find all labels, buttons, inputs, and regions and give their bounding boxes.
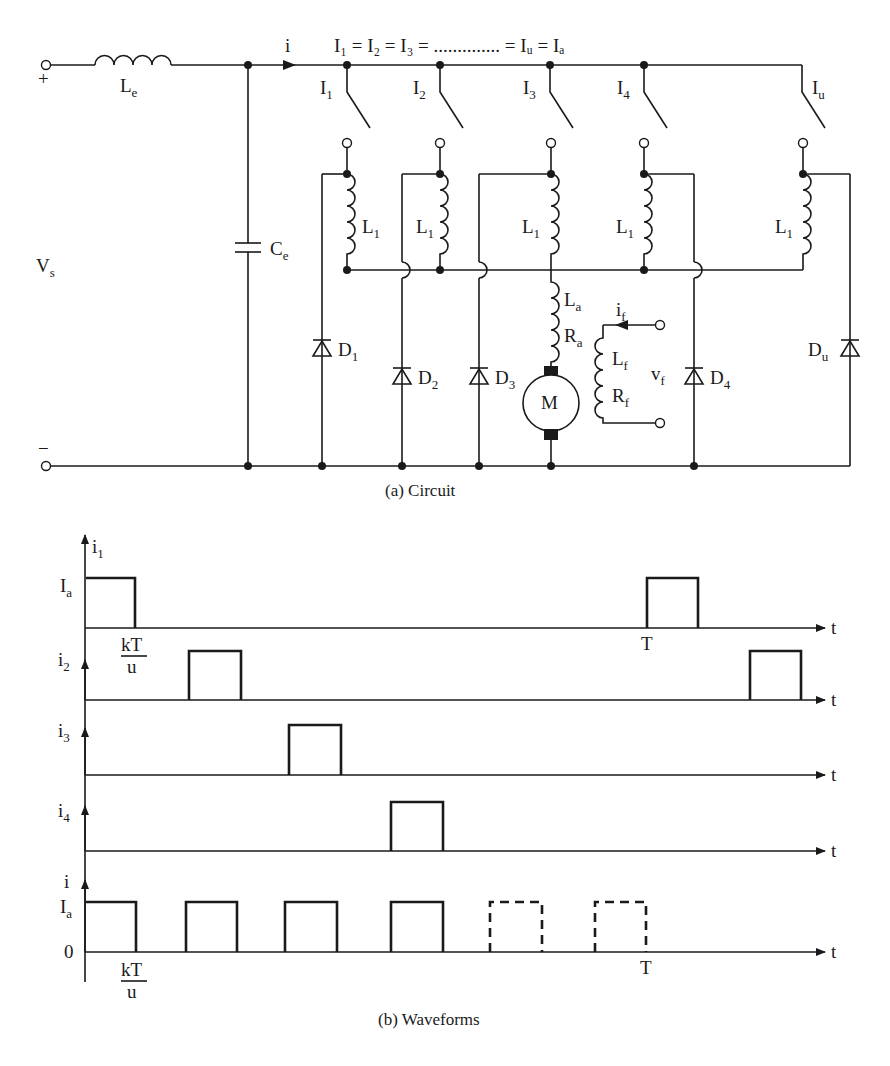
phase-inductor-label: L1 xyxy=(362,216,380,241)
trace-label: i3 xyxy=(58,720,70,745)
motor-label: M xyxy=(541,392,558,413)
pulse-i xyxy=(86,902,136,952)
current-arrow-icon xyxy=(283,60,296,70)
kt-over-u-label: kT u xyxy=(121,959,147,1002)
t-axis-label: t xyxy=(831,941,837,962)
diode-label: D3 xyxy=(495,367,515,392)
bottom-rail xyxy=(42,462,851,471)
diodes xyxy=(313,340,859,384)
pulse-i4 xyxy=(391,802,443,851)
phase-inductor-label: L1 xyxy=(416,216,434,241)
svg-text:kT: kT xyxy=(121,959,143,980)
armature-resistance-label: Ra xyxy=(564,325,583,350)
plus-label: + xyxy=(38,68,49,89)
svg-text:u: u xyxy=(127,981,137,1002)
circuit: + − Vs Le Ce i I₁ = I₂ = I₃ = ..........… xyxy=(36,35,859,500)
diode-label: D1 xyxy=(338,339,358,364)
svg-text:kT: kT xyxy=(121,634,143,655)
field-inductance-label: Lf xyxy=(612,348,629,373)
trace-label: i1 xyxy=(92,536,104,561)
pulse-i2 xyxy=(189,651,241,700)
level-label: Ia xyxy=(60,896,72,921)
diode-label: D2 xyxy=(418,367,438,392)
t-axis-label: t xyxy=(831,840,837,861)
circuit-labels: + − Vs Le Ce i I₁ = I₂ = I₃ = ..........… xyxy=(36,35,829,500)
pulse-i-dashed xyxy=(595,902,646,952)
input-inductor-label: Le xyxy=(120,75,138,100)
pulse-i1 xyxy=(86,578,135,628)
diode-label: D4 xyxy=(710,367,731,392)
diagram-canvas: + − Vs Le Ce i I₁ = I₂ = I₃ = ..........… xyxy=(0,0,890,1066)
field-current-label: if xyxy=(616,299,626,324)
svg-text:u: u xyxy=(127,656,137,677)
pulse-i xyxy=(285,902,337,952)
t-axis-label: t xyxy=(831,617,837,638)
current-equation: I₁ = I₂ = I₃ = .............. = Iᵤ = Iₐ xyxy=(334,35,565,56)
level-label: Ia xyxy=(60,575,72,600)
armature-inductance-label: La xyxy=(564,289,582,314)
zero-label: 0 xyxy=(64,941,74,962)
field-voltage-label: vf xyxy=(651,363,666,388)
source-label: Vs xyxy=(36,255,55,280)
kt-over-u-label: kT u xyxy=(121,634,147,677)
line-current-label: i xyxy=(285,35,290,56)
diode-label: Du xyxy=(808,339,829,364)
phase-inductor-label: L1 xyxy=(522,216,540,241)
trace-label: i xyxy=(64,871,69,892)
negative-terminal xyxy=(42,462,51,471)
trace-label: i2 xyxy=(58,649,70,674)
switch-label: I1 xyxy=(320,77,333,102)
input-capacitor-label: Ce xyxy=(270,238,289,263)
t-axis-label: t xyxy=(831,689,837,710)
pulse-i3 xyxy=(289,725,341,775)
pulse-i2 xyxy=(750,651,801,700)
phase-inductor-label: L1 xyxy=(775,216,793,241)
period-label: T xyxy=(640,957,652,978)
t-axis-label: t xyxy=(831,764,837,785)
switch-label: I3 xyxy=(523,77,536,102)
waveforms-caption: (b) Waveforms xyxy=(378,1010,480,1029)
pulse-i-dashed xyxy=(490,902,542,952)
top-rail xyxy=(42,56,803,71)
waveforms: i1 i2 i3 i4 i Ia Ia 0 kT u kT u T T t t … xyxy=(58,535,837,1029)
switch-label: Iu xyxy=(812,77,825,102)
trace-label: i4 xyxy=(58,800,70,825)
switch-label: I4 xyxy=(617,77,630,102)
phase-inductor-label: L1 xyxy=(616,216,634,241)
input-capacitor xyxy=(235,65,261,466)
minus-label: − xyxy=(38,438,49,459)
field-resistance-label: Rf xyxy=(612,385,630,410)
circuit-caption: (a) Circuit xyxy=(385,481,456,500)
phase-legs xyxy=(322,148,850,466)
input-inductor-icon xyxy=(95,56,171,66)
pulse-i xyxy=(186,902,237,952)
switch-label: I2 xyxy=(413,77,426,102)
pulse-i1 xyxy=(647,578,698,628)
period-label: T xyxy=(641,633,653,654)
pulse-i xyxy=(391,902,443,952)
